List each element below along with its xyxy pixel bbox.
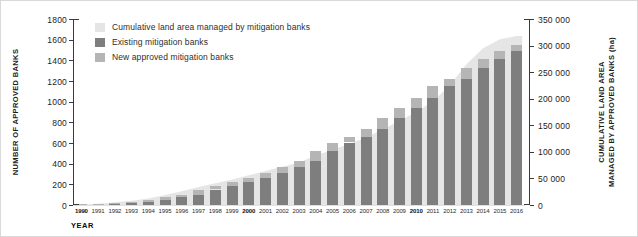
left-axis-tickmark — [69, 60, 73, 61]
right-axis-tickmark — [530, 46, 534, 47]
bar-new-segment — [361, 129, 372, 137]
left-axis-tickmark — [69, 102, 73, 103]
bar-existing-segment — [478, 68, 489, 205]
left-axis-tickmark — [69, 164, 73, 165]
bar-existing-segment — [394, 118, 405, 205]
left-axis-tick-label: 1000 — [35, 97, 67, 107]
right-axis-tick-label: 200 000 — [538, 94, 586, 104]
bar-new-segment — [461, 68, 472, 79]
legend-item-label: Existing mitigation banks — [112, 37, 208, 47]
legend-item: Existing mitigation banks — [95, 37, 310, 47]
right-axis-tick-label: 150 000 — [538, 121, 586, 131]
left-axis-tick-label: 1200 — [35, 77, 67, 87]
right-axis-title: CUMULATIVE LAND AREA MANAGED BY APPROVED… — [597, 37, 617, 187]
bar-existing-segment — [243, 182, 254, 205]
bar-existing-segment — [494, 59, 505, 205]
right-axis-tickmark — [530, 178, 534, 179]
bar-new-segment — [210, 186, 221, 190]
bar-existing-segment — [411, 108, 422, 205]
bar-new-segment — [243, 178, 254, 182]
right-axis-title-line2: MANAGED BY APPROVED BANKS (ha) — [607, 37, 617, 187]
bar-new-segment — [160, 197, 171, 200]
bar-new-segment — [193, 190, 204, 195]
right-axis-line — [529, 19, 530, 205]
right-axis-tick-label: 300 000 — [538, 41, 586, 51]
left-axis-tick-label: 1400 — [35, 56, 67, 66]
left-axis-bottom-cap — [74, 204, 79, 205]
right-axis-bottom-cap — [524, 204, 529, 205]
left-axis-tick-label: 0 — [35, 201, 67, 211]
bar-existing-segment — [294, 167, 305, 205]
left-axis-tickmark — [69, 122, 73, 123]
bar-new-segment — [411, 98, 422, 108]
bar-new-segment — [327, 143, 338, 151]
left-axis-tickmark — [69, 184, 73, 185]
legend-swatch — [95, 23, 105, 32]
right-axis-tick-label: 50 000 — [538, 174, 586, 184]
bar-new-segment — [176, 195, 187, 198]
bar-existing-segment — [227, 186, 238, 205]
legend-item: Cumulative land area managed by mitigati… — [95, 22, 310, 32]
bar-new-segment — [478, 59, 489, 68]
bar-existing-segment — [176, 197, 187, 205]
bar-new-segment — [511, 45, 522, 51]
legend-item: New approved mitigation banks — [95, 52, 310, 62]
right-axis-tickmark — [530, 99, 534, 100]
bar-new-segment — [344, 137, 355, 143]
left-axis-tickmark — [69, 19, 73, 20]
bar-new-segment — [109, 203, 120, 204]
left-axis-top-cap — [74, 19, 79, 20]
bar-existing-segment — [427, 98, 438, 206]
bar-existing-segment — [310, 161, 321, 205]
left-axis-tick-label: 400 — [35, 159, 67, 169]
right-axis-tick-label: 100 000 — [538, 147, 586, 157]
bar-new-segment — [260, 173, 271, 178]
bar-new-segment — [394, 108, 405, 118]
bar-new-segment — [494, 51, 505, 59]
left-axis-tick-label: 200 — [35, 180, 67, 190]
right-axis-title-line1: CUMULATIVE LAND AREA — [597, 37, 607, 187]
bar-new-segment — [227, 182, 238, 186]
bar-new-segment — [143, 200, 154, 201]
legend-item-label: Cumulative land area managed by mitigati… — [112, 22, 310, 32]
left-axis-line — [73, 19, 74, 205]
bar-existing-segment — [444, 86, 455, 205]
left-axis-tick-label: 800 — [35, 118, 67, 128]
legend-swatch — [95, 53, 105, 62]
bar-existing-segment — [344, 143, 355, 206]
legend-item-label: New approved mitigation banks — [112, 52, 234, 62]
bar-new-segment — [377, 118, 388, 129]
bar-new-segment — [294, 161, 305, 168]
x-axis-title: YEAR — [71, 221, 94, 230]
legend-swatch — [95, 38, 105, 47]
left-axis-tick-label: 600 — [35, 139, 67, 149]
left-axis-tick-label: 1800 — [35, 15, 67, 25]
right-axis-tickmark — [530, 72, 534, 73]
left-axis-title: NUMBER OF APPROVED BANKS — [11, 49, 20, 175]
right-axis-tickmark — [530, 205, 534, 206]
bar-existing-segment — [377, 129, 388, 205]
x-axis-baseline — [73, 205, 525, 206]
right-axis-tick-label: 250 000 — [538, 68, 586, 78]
bar-existing-segment — [193, 195, 204, 205]
bar-new-segment — [427, 86, 438, 97]
bar-existing-segment — [327, 151, 338, 205]
year-label: 2016 — [505, 208, 529, 214]
bar-existing-segment — [361, 137, 372, 205]
right-axis-tickmark — [530, 152, 534, 153]
bar-new-segment — [444, 79, 455, 86]
left-axis-tickmark — [69, 40, 73, 41]
legend: Cumulative land area managed by mitigati… — [95, 22, 310, 67]
bar-existing-segment — [511, 51, 522, 205]
bar-existing-segment — [461, 79, 472, 205]
bar-new-segment — [277, 167, 288, 173]
bar-existing-segment — [260, 178, 271, 205]
right-axis-top-cap — [524, 19, 529, 20]
left-axis-tick-label: 1600 — [35, 35, 67, 45]
left-axis-tickmark — [69, 81, 73, 82]
bar-existing-segment — [277, 173, 288, 205]
right-axis-tick-label: 0 — [538, 201, 586, 211]
right-axis-tickmark — [530, 125, 534, 126]
left-axis-tickmark — [69, 205, 73, 206]
bar-new-segment — [310, 151, 321, 161]
